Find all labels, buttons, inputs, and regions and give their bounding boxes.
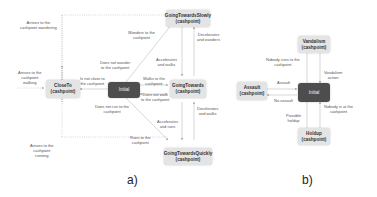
node-going-towards-slowly: GoingTowardsSlowly (cashpoint) — [166, 10, 210, 27]
label-no-assault: No assault — [274, 98, 293, 103]
node-holdup: Holdup (cashpoint) — [298, 128, 330, 145]
label-walks-to: Walks to thecashpoint — [143, 76, 165, 86]
label-runs-to: Runs to thecashpoint — [130, 135, 150, 145]
node-sublabel: (cashpoint) — [302, 137, 327, 143]
label-vandalism-action: Vandalismaction — [324, 70, 342, 80]
label-accelerates-walks: Acceleratesand walks — [156, 57, 177, 67]
label-not-wander: Does not wanderto the cashpoint — [100, 60, 130, 70]
label-arrives-running: Arrives to thecashpointrunning — [30, 143, 54, 158]
label-nobody-runs: Nobody runs to thecashpoint — [266, 57, 300, 67]
label-wanders-to: Wanders to thecashpoint — [128, 30, 155, 40]
node-sublabel: (cashpoint) — [176, 89, 201, 95]
label-assault: Assault — [277, 80, 290, 85]
node-sublabel: (cashpoint) — [51, 89, 76, 95]
node-initial-b: Initial — [298, 83, 330, 102]
label-not-run: Does not run to thecashpoint — [95, 104, 129, 114]
node-assault: Assault (cashpoint) — [237, 82, 267, 100]
label-decelerates-wanders: Deceleratesand wanders — [197, 32, 220, 42]
node-label: Initial — [309, 90, 320, 96]
node-sublabel: (cashpoint) — [240, 91, 265, 97]
node-close-to: CloseTo (cashpoint) — [46, 80, 80, 98]
node-label: Initial — [119, 87, 130, 93]
label-not-close: Is not close tothe cashpoint — [80, 76, 105, 86]
label-possible-holdup: Possibleholdup — [286, 113, 301, 123]
node-vandalism: Vandalism (cashpoint) — [298, 36, 330, 53]
label-not-walk: Does not walkto the cashpoint — [141, 92, 169, 102]
caption-a: a) — [127, 173, 138, 187]
label-arrives-wandering: Arrives to thecashpoint wandering — [20, 20, 57, 30]
label-decelerates-walks: Deceleratesand walks — [197, 106, 218, 116]
node-sublabel: (cashpoint) — [302, 45, 327, 51]
caption-b: b) — [302, 173, 313, 187]
node-initial-a: Initial — [108, 82, 140, 98]
node-sublabel: (cashpoint) — [176, 19, 201, 25]
label-nobody-at: Nobody is at thecashpoint — [324, 104, 353, 114]
node-going-towards-quickly: GoingTowardsQuickly (cashpoint) — [164, 148, 212, 165]
label-arrives-walking: Arrives to thecashpointwalking — [18, 70, 42, 85]
node-going-towards: GoingTowards (cashpoint) — [170, 80, 206, 98]
node-sublabel: (cashpoint) — [176, 157, 201, 163]
label-accelerates-runs: Acceleratesand runs — [157, 119, 178, 129]
